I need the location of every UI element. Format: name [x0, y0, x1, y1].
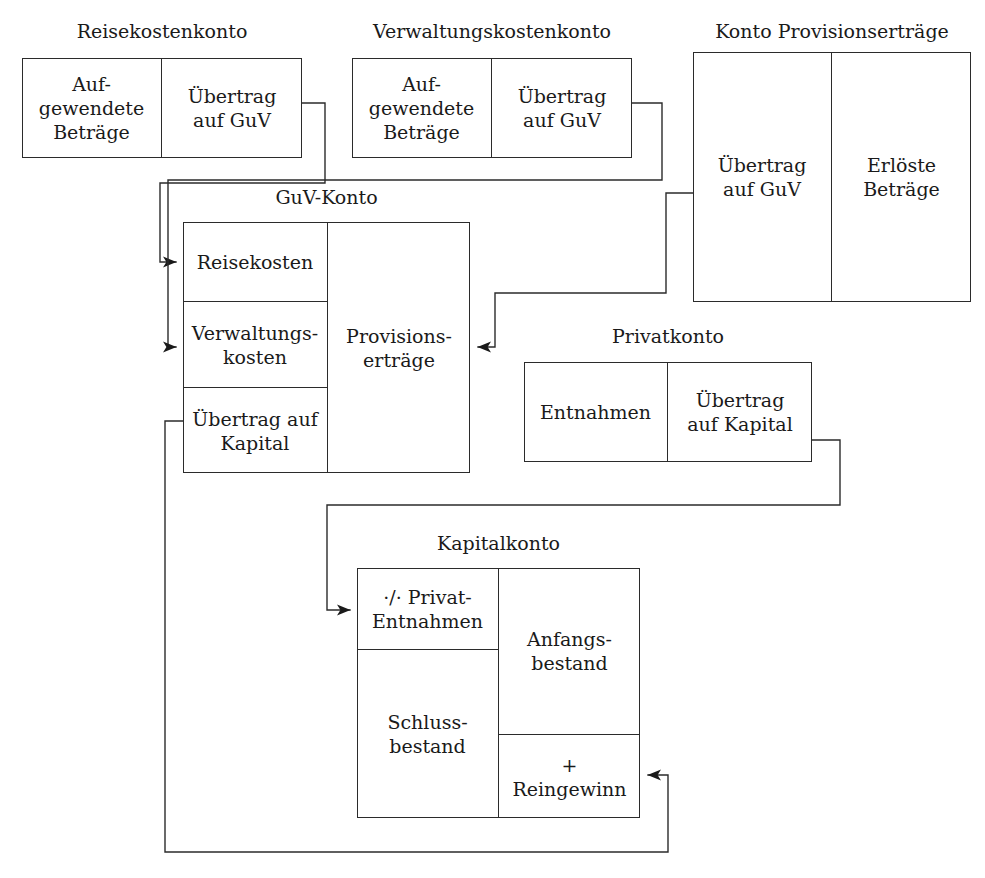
cell-text: Anfangs-bestand [527, 627, 612, 675]
cell-text: Reisekosten [197, 250, 313, 274]
connector-provisionsertraege-to-guv [478, 193, 693, 347]
cell-guv-reisekosten: Reisekosten [183, 222, 328, 302]
cell-text: Auf-gewendeteBeträge [39, 72, 144, 144]
cell-kapitalkonto-anfangsbestand: Anfangs-bestand [499, 568, 640, 735]
cell-text: ErlösteBeträge [863, 153, 940, 201]
cell-verwaltungskostenkonto-debit: Auf-gewendeteBeträge [352, 58, 492, 158]
cell-text: Provisions-erträge [346, 324, 452, 372]
account-title-privatkonto: Privatkonto [524, 325, 812, 348]
cell-konto-provisionsertraege-credit: ErlösteBeträge [832, 52, 971, 302]
cell-text: Übertragauf GuV [188, 84, 277, 132]
cell-privatkonto-debit: Entnahmen [524, 362, 668, 462]
account-title-konto-provisionsertraege: Konto Provisionserträge [693, 20, 971, 43]
cell-kapitalkonto-privat-entnahmen: ·/· Privat-Entnahmen [357, 568, 499, 650]
cell-text: +Reingewinn [512, 753, 626, 801]
cell-text: Übertragauf GuV [518, 84, 607, 132]
cell-guv-verwaltungskosten: Verwaltungs-kosten [183, 302, 328, 388]
account-title-reisekostenkonto: Reisekostenkonto [22, 20, 302, 43]
account-title-guv-konto: GuV-Konto [183, 186, 470, 209]
cell-guv-provisionsertraege: Provisions-erträge [328, 222, 470, 473]
cell-text: Entnahmen [540, 400, 651, 424]
diagram-canvas: Reisekostenkonto Auf-gewendeteBeträge Üb… [0, 0, 985, 878]
cell-konto-provisionsertraege-debit: Übertragauf GuV [693, 52, 832, 302]
cell-kapitalkonto-schlussbestand: Schluss-bestand [357, 650, 499, 818]
cell-privatkonto-credit: Übertragauf Kapital [668, 362, 812, 462]
cell-text: Übertragauf GuV [718, 153, 807, 201]
account-title-kapitalkonto: Kapitalkonto [357, 532, 640, 555]
cell-reisekostenkonto-debit: Auf-gewendeteBeträge [22, 58, 162, 158]
cell-text: Schluss-bestand [387, 710, 467, 758]
cell-text: Übertrag aufKapital [192, 407, 317, 455]
cell-verwaltungskostenkonto-credit: Übertragauf GuV [492, 58, 632, 158]
cell-text: Auf-gewendeteBeträge [369, 72, 474, 144]
account-title-verwaltungskostenkonto: Verwaltungskostenkonto [352, 20, 632, 43]
cell-kapitalkonto-reingewinn: +Reingewinn [499, 735, 640, 818]
cell-text: ·/· Privat-Entnahmen [372, 585, 483, 633]
cell-text: Übertragauf Kapital [687, 388, 792, 436]
cell-reisekostenkonto-credit: Übertragauf GuV [162, 58, 302, 158]
cell-guv-uebertrag-auf-kapital: Übertrag aufKapital [183, 388, 328, 473]
cell-text: Verwaltungs-kosten [192, 321, 318, 369]
